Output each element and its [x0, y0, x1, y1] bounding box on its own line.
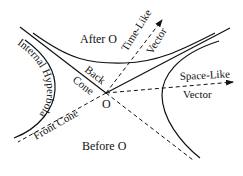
- label-space-like: Space-Like: [179, 67, 230, 82]
- label-before-o: Before O: [82, 139, 127, 153]
- label-space-like-vector: Vector: [183, 88, 212, 100]
- label-time-like-vector: Vector: [144, 25, 170, 56]
- label-origin: O: [102, 97, 111, 111]
- label-after-o: After O: [80, 32, 117, 46]
- light-cone-diagram: After O Before O Time-Like Vector Space-…: [0, 0, 243, 176]
- label-front-cone: Front Cone: [31, 106, 80, 141]
